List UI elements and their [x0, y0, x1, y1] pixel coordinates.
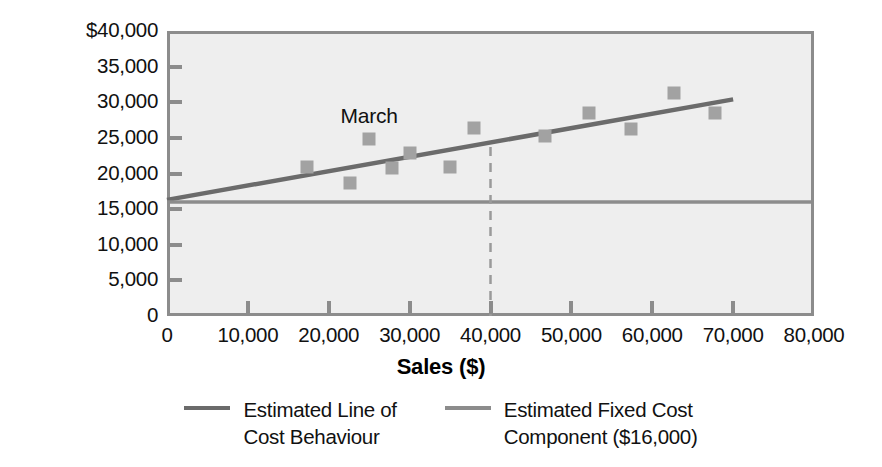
- cost-behaviour-scatter-chart: Cost ($) 05,00010,00015,00020,00025,0003…: [0, 0, 882, 467]
- x-tick-label: 40,000: [460, 325, 521, 346]
- legend-line-swatch: [445, 406, 491, 410]
- x-tick-label: 80,000: [784, 325, 845, 346]
- x-tick-label: 20,000: [298, 325, 359, 346]
- legend-line-swatch: [184, 406, 230, 410]
- x-tick-label: 50,000: [541, 325, 602, 346]
- x-tick-label: 10,000: [217, 325, 278, 346]
- x-tick-label: 70,000: [703, 325, 764, 346]
- legend-entry: Estimated Line of Cost Behaviour: [184, 396, 396, 451]
- x-axis-title: Sales ($): [0, 354, 882, 380]
- legend-label: Estimated Line of Cost Behaviour: [243, 396, 396, 451]
- x-tick-label: 60,000: [622, 325, 683, 346]
- chart-legend: Estimated Line of Cost BehaviourEstimate…: [0, 396, 882, 451]
- x-tick-label: 30,000: [379, 325, 440, 346]
- legend-label: Estimated Fixed Cost Component ($16,000): [504, 396, 698, 451]
- x-tick-label: 0: [161, 325, 172, 346]
- legend-entry: Estimated Fixed Cost Component ($16,000): [445, 396, 698, 451]
